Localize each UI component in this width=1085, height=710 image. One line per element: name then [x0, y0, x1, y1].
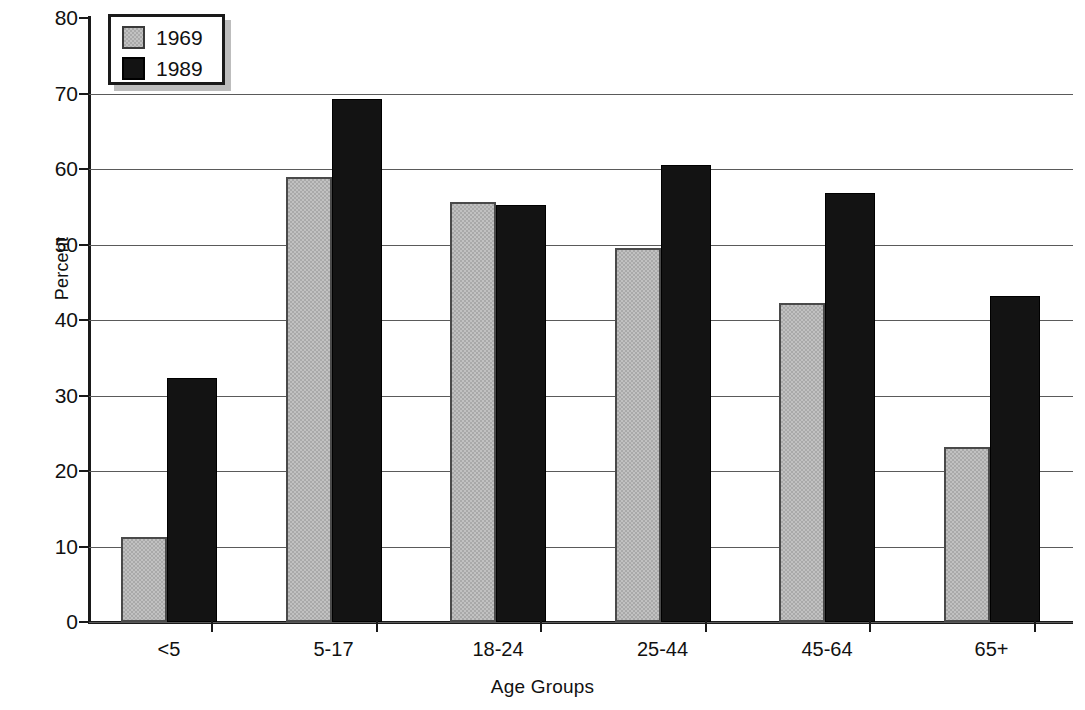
y-axis-tick	[79, 546, 89, 548]
x-axis-tick	[376, 621, 378, 632]
legend-item-1969: 1969	[122, 26, 203, 49]
x-axis-tick	[705, 621, 707, 632]
x-axis-tick	[1034, 621, 1036, 632]
x-axis-tick	[540, 621, 542, 632]
y-axis-tick	[79, 395, 89, 397]
y-axis-tick	[79, 470, 89, 472]
y-axis-tick	[79, 319, 89, 321]
bar-1969-45-64	[779, 303, 825, 622]
gridline	[88, 320, 1073, 321]
legend-swatch-1989	[122, 57, 145, 80]
bar-1989-5-17	[332, 99, 382, 622]
x-axis-tick	[869, 621, 871, 632]
bar-1969-<5	[121, 537, 167, 622]
y-axis-tick	[79, 168, 89, 170]
y-axis-tick-label: 60	[26, 157, 78, 181]
bar-1969-5-17	[286, 177, 332, 622]
y-axis-tick-labels: 01020304050607080	[26, 0, 78, 710]
bar-1989-<5	[167, 378, 217, 622]
y-axis-tick-label: 20	[26, 459, 78, 483]
x-axis-title: Age Groups	[0, 676, 1085, 698]
x-axis-category-label: 18-24	[438, 638, 558, 661]
x-axis-category-label: <5	[109, 638, 229, 661]
y-axis-tick-label: 80	[26, 6, 78, 30]
x-axis-category-label: 65+	[932, 638, 1052, 661]
y-axis-tick	[79, 17, 89, 19]
bar-1969-25-44	[615, 248, 661, 622]
gridline	[88, 94, 1073, 95]
gridline	[88, 622, 1073, 623]
gridline	[88, 547, 1073, 548]
y-axis-tick	[79, 93, 89, 95]
bar-1969-18-24	[450, 202, 496, 622]
y-axis-title: Percent	[52, 209, 73, 329]
y-axis-tick-label: 70	[26, 82, 78, 106]
gridline	[88, 396, 1073, 397]
bar-chart: 01020304050607080 Percent Age Groups 196…	[0, 0, 1085, 710]
x-axis-tick	[211, 621, 213, 632]
bar-1989-18-24	[496, 205, 546, 622]
x-axis-category-label: 45-64	[767, 638, 887, 661]
y-axis-tick-label: 0	[26, 610, 78, 634]
y-axis-tick	[79, 621, 89, 623]
plot-area	[88, 18, 1073, 622]
bar-1969-65+	[944, 447, 990, 622]
gridline	[88, 471, 1073, 472]
legend-item-1989: 1989	[122, 57, 203, 80]
gridline	[88, 245, 1073, 246]
x-axis-category-label: 5-17	[274, 638, 394, 661]
x-axis-category-label: 25-44	[603, 638, 723, 661]
y-axis-tick-label: 30	[26, 384, 78, 408]
chart-legend: 19691989	[108, 14, 225, 85]
legend-swatch-1969	[122, 26, 145, 49]
bar-1989-45-64	[825, 193, 875, 622]
legend-label-1969: 1969	[156, 27, 203, 48]
y-axis-tick-label: 10	[26, 535, 78, 559]
gridline	[88, 169, 1073, 170]
bar-1989-65+	[990, 296, 1040, 622]
legend-label-1989: 1989	[156, 58, 203, 79]
bar-1989-25-44	[661, 165, 711, 622]
y-axis-tick	[79, 244, 89, 246]
